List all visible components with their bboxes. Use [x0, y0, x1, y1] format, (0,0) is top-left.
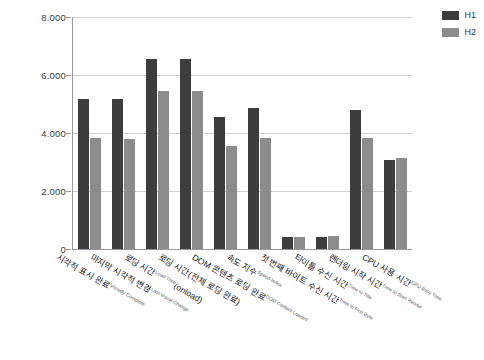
bar-h1: [384, 160, 395, 249]
bar-h2: [396, 158, 407, 249]
bar-group: [174, 17, 208, 249]
y-axis-tick-label: 6.000: [6, 70, 66, 81]
bar-h1: [180, 59, 191, 249]
bar-group: [106, 17, 140, 249]
legend-label: H2: [464, 27, 476, 37]
legend-swatch-icon: [442, 28, 459, 37]
bar-group: [344, 17, 378, 249]
bar-h2: [260, 138, 271, 249]
bar-h1: [112, 99, 123, 249]
y-axis-tick-mark: [66, 191, 71, 192]
bar-h2: [124, 139, 135, 249]
bar-h1: [248, 108, 259, 249]
bar-group: [72, 17, 106, 249]
bar-group: [378, 17, 412, 249]
bar-h1: [316, 237, 327, 249]
x-axis-label-en: Load Time: [155, 270, 177, 286]
bar-group: [310, 17, 344, 249]
bar-h1: [78, 99, 89, 249]
bar-h2: [328, 236, 339, 249]
y-axis-tick-label: 8.000: [6, 12, 66, 23]
y-axis-tick-label: 4.000: [6, 128, 66, 139]
bar-h2: [294, 237, 305, 249]
bar-h2: [158, 91, 169, 249]
bar-h1: [214, 117, 225, 249]
bar-chart: 8.0006.0004.0002.0000 시각적 표시 완료Visually …: [0, 0, 484, 360]
bar-h1: [282, 237, 293, 249]
bar-group: [140, 17, 174, 249]
bar-h2: [362, 138, 373, 249]
y-axis-tick-label: 2.000: [6, 186, 66, 197]
bar-h1: [350, 110, 361, 249]
y-axis-tick-mark: [66, 249, 71, 250]
bar-h2: [226, 146, 237, 249]
legend-item-h2[interactable]: H2: [442, 27, 476, 37]
x-axis-labels: 시각적 표시 완료Visually Complete마지막 시각적 변경Last…: [0, 253, 484, 360]
bar-h1: [146, 59, 157, 249]
x-axis-line: [72, 249, 412, 250]
y-axis-tick-mark: [66, 133, 71, 134]
legend: H1H2: [442, 10, 476, 37]
x-axis-label-en: CPU Busy Time: [410, 280, 442, 302]
bar-group: [276, 17, 310, 249]
legend-label: H1: [464, 10, 476, 20]
bar-h2: [192, 91, 203, 249]
x-axis-label-en: DOM Content Loaded: [265, 294, 309, 322]
legend-swatch-icon: [442, 11, 459, 20]
bar-group: [208, 17, 242, 249]
bar-group: [242, 17, 276, 249]
legend-item-h1[interactable]: H1: [442, 10, 476, 20]
bar-groups: [72, 17, 412, 249]
bar-h2: [90, 138, 101, 249]
y-axis-tick-mark: [66, 17, 71, 18]
y-axis-tick-mark: [66, 75, 71, 76]
